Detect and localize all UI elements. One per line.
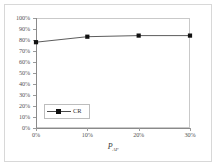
y-axis-tick-label: 90% — [19, 26, 30, 32]
y-axis-tick — [33, 62, 36, 63]
y-axis-line — [36, 18, 37, 128]
x-axis-tick-label: 20% — [133, 132, 144, 138]
y-axis-tick-labels: 100%90%80%70%60%50%40%30%20%10%0% — [0, 18, 34, 128]
chart-figure: 100%90%80%70%60%50%40%30%20%10%0% 0%10%2… — [0, 0, 216, 166]
y-axis-tick-label: 40% — [19, 81, 30, 87]
y-axis-tick-label: 10% — [19, 114, 30, 120]
y-axis-tick-label: 60% — [19, 59, 30, 65]
y-axis-tick-label: 70% — [19, 48, 30, 54]
x-axis-tick-label: 0% — [32, 132, 40, 138]
x-axis-line — [36, 128, 190, 129]
x-axis-title-subscript: AF — [113, 147, 119, 152]
y-axis-tick — [33, 18, 36, 19]
x-axis-tick-label: 30% — [184, 132, 195, 138]
y-axis-tick-label: 20% — [19, 103, 30, 109]
y-axis-tick — [33, 51, 36, 52]
y-axis-tick-label: 80% — [19, 37, 30, 43]
y-axis-tick-label: 0% — [22, 125, 30, 131]
y-axis-tick — [33, 29, 36, 30]
y-axis-tick-label: 100% — [16, 15, 30, 21]
x-axis-tick-label: 10% — [82, 132, 93, 138]
y-axis-tick — [33, 73, 36, 74]
x-axis-tick — [36, 128, 37, 131]
y-axis-tick — [33, 106, 36, 107]
chart-legend: CR — [44, 104, 90, 119]
x-axis-tick — [139, 128, 140, 131]
x-axis-title: PAF — [108, 142, 119, 152]
x-axis-tick — [87, 128, 88, 131]
y-axis-tick-label: 50% — [19, 70, 30, 76]
legend-line-marker-sample — [47, 107, 71, 116]
y-axis-tick — [33, 40, 36, 41]
x-axis-tick — [190, 128, 191, 131]
y-axis-tick — [33, 95, 36, 96]
y-axis-tick-label: 30% — [19, 92, 30, 98]
y-axis-tick — [33, 117, 36, 118]
y-axis-tick — [33, 84, 36, 85]
legend-label-cr: CR — [73, 108, 82, 114]
legend-marker-icon — [56, 109, 61, 114]
